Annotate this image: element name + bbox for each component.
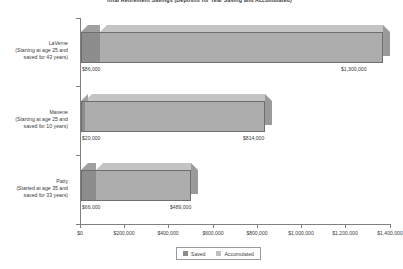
- legend-item-saved[interactable]: Saved: [183, 251, 205, 257]
- bar-group-patty: [81, 170, 191, 201]
- y-axis-tick: [76, 86, 81, 87]
- bar-side-face: [383, 25, 390, 56]
- bar-group-maxene: [81, 101, 265, 132]
- chart-title: Total Retirement Savings (Deposits for Y…: [0, 0, 398, 4]
- x-axis-tick-label: $600,000: [202, 230, 223, 236]
- y-axis-tick: [76, 155, 81, 156]
- x-axis-tick: [301, 224, 302, 228]
- x-axis-tick-label: $1,000,000: [288, 230, 314, 236]
- value-label-accumulated-maxene: $814,000: [243, 135, 264, 141]
- x-axis-tick: [168, 224, 169, 228]
- plot-area: $86,000 $1,300,000 $20,000 $814,000 $66,…: [80, 18, 390, 224]
- category-name: Maxene: [0, 109, 68, 116]
- value-label-saved-maxene: $20,000: [82, 135, 100, 141]
- x-axis-tick-label: $0: [77, 230, 83, 236]
- category-subtitle-line-2: saved for 43 years): [0, 54, 68, 61]
- y-axis-tick: [76, 18, 81, 19]
- bar-segment-saved: [81, 170, 96, 201]
- x-axis-tick: [124, 224, 125, 228]
- chart-legend: Saved Accumulated: [176, 247, 261, 260]
- category-subtitle-line-1: (Starting at age 25 and: [0, 47, 68, 54]
- x-axis-tick-label: $1,400,000: [377, 230, 403, 236]
- category-label-maxene: Maxene (Starting at age 25 and saved for…: [0, 109, 68, 131]
- category-subtitle-line-1: (Started at age 35 and: [0, 185, 68, 192]
- category-name: Patty: [0, 178, 68, 185]
- value-label-accumulated-laverne: $1,300,000: [341, 66, 367, 72]
- x-axis-tick: [257, 224, 258, 228]
- value-label-saved-patty: $66,000: [82, 204, 100, 210]
- x-axis-line: [80, 224, 390, 225]
- bar-segment-saved: [81, 32, 100, 63]
- bar-group-laverne: [81, 32, 383, 63]
- legend-swatch-icon: [183, 251, 188, 256]
- value-label-saved-laverne: $86,000: [82, 66, 100, 72]
- category-name: LaVerne: [0, 40, 68, 47]
- bar-top-face-saved: [81, 25, 100, 32]
- x-axis-tick: [213, 224, 214, 228]
- category-subtitle-line-1: (Starting at age 25 and: [0, 116, 68, 123]
- x-axis-tick-label: $200,000: [113, 230, 134, 236]
- category-label-patty: Patty (Started at age 35 and saved for 3…: [0, 178, 68, 200]
- legend-swatch-icon: [216, 251, 221, 256]
- value-label-accumulated-patty: $489,000: [170, 204, 191, 210]
- bar-segment-accumulated: [100, 32, 383, 63]
- x-axis-tick: [80, 224, 81, 228]
- legend-label: Saved: [191, 251, 205, 257]
- x-axis-tick-label: $400,000: [157, 230, 178, 236]
- bar-side-face: [265, 94, 272, 125]
- bar-top-face-saved: [81, 163, 96, 170]
- bar-segment-accumulated: [96, 170, 191, 201]
- bar-side-face: [191, 163, 198, 194]
- legend-item-accumulated[interactable]: Accumulated: [216, 251, 253, 257]
- bar-top-face-accumulated: [96, 163, 191, 170]
- x-axis-tick-label: $800,000: [246, 230, 267, 236]
- bar-top-face-accumulated: [100, 25, 383, 32]
- x-axis-tick-label: $1,200,000: [332, 230, 358, 236]
- category-subtitle-line-2: saved for 33 years): [0, 192, 68, 199]
- category-subtitle-line-2: saved for 10 years): [0, 123, 68, 130]
- bar-top-face-accumulated: [85, 94, 265, 101]
- legend-label: Accumulated: [224, 251, 253, 257]
- bar-segment-accumulated: [85, 101, 265, 132]
- category-label-laverne: LaVerne (Starting at age 25 and saved fo…: [0, 40, 68, 62]
- bar-top-face-saved: [81, 94, 88, 101]
- x-axis-tick: [390, 224, 391, 228]
- x-axis-tick: [345, 224, 346, 228]
